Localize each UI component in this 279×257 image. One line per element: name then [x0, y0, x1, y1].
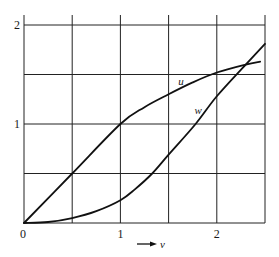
curve-w: [24, 44, 265, 223]
series-label-w: w: [195, 104, 203, 116]
curves: [24, 44, 265, 223]
y-tick-label: 2: [14, 18, 20, 32]
tick-labels: 01212: [14, 18, 220, 241]
x-tick-label: 0: [20, 227, 26, 241]
curve-u: [24, 62, 260, 223]
x-axis-arrow: v: [137, 238, 165, 250]
series-label-u: u: [178, 75, 184, 87]
arrow-right-icon: [150, 242, 157, 247]
x-axis-variable-label: v: [160, 238, 165, 250]
series-labels: uw: [178, 75, 202, 116]
x-tick-label: 1: [117, 227, 123, 241]
chart: 01212 uw v: [0, 0, 279, 257]
grid-lines: [24, 15, 265, 223]
y-tick-label: 1: [14, 117, 20, 131]
x-tick-label: 2: [214, 227, 220, 241]
